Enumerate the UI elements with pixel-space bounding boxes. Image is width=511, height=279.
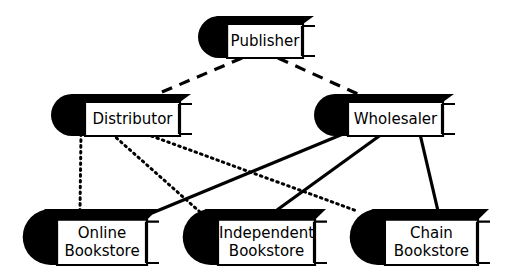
node-label-line: Bookstore bbox=[64, 242, 139, 260]
diagram-canvas: PublisherDistributorWholesalerOnlineBook… bbox=[0, 0, 511, 279]
book-top-edge bbox=[205, 209, 327, 220]
node-independent-bookstore[interactable]: IndependentBookstore bbox=[183, 209, 327, 265]
node-label-publisher: Publisher bbox=[231, 31, 301, 49]
edge-publisher-to-distributor bbox=[155, 58, 242, 95]
book-top-edge bbox=[216, 16, 314, 24]
node-label-line: Independent bbox=[219, 224, 314, 242]
node-online-bookstore[interactable]: OnlineBookstore bbox=[23, 209, 159, 265]
edge-publisher-to-wholesaler bbox=[278, 58, 360, 95]
edge-wholesaler-to-chain-bookstore bbox=[420, 134, 438, 211]
node-label-line: Bookstore bbox=[229, 242, 304, 260]
node-label-line: Chain bbox=[410, 224, 453, 242]
node-distributor[interactable]: Distributor bbox=[51, 94, 192, 136]
edge-wholesaler-to-independent-bookstore bbox=[277, 134, 382, 210]
node-chain-bookstore[interactable]: ChainBookstore bbox=[350, 209, 490, 265]
node-label-line: Wholesaler bbox=[354, 109, 438, 127]
book-top-edge bbox=[72, 94, 192, 102]
node-label-line: Bookstore bbox=[394, 242, 469, 260]
node-label-distributor: Distributor bbox=[92, 109, 173, 127]
book-top-edge bbox=[335, 94, 455, 102]
edge-distributor-to-online-bookstore bbox=[80, 134, 81, 211]
node-label-independent-bookstore: IndependentBookstore bbox=[219, 224, 314, 260]
node-label-wholesaler: Wholesaler bbox=[354, 109, 438, 127]
node-wholesaler[interactable]: Wholesaler bbox=[314, 94, 455, 136]
node-label-line: Online bbox=[78, 224, 126, 242]
book-top-edge bbox=[44, 209, 158, 220]
book-distribution-diagram: PublisherDistributorWholesalerOnlineBook… bbox=[0, 0, 511, 279]
node-label-line: Distributor bbox=[92, 109, 173, 127]
book-top-edge bbox=[371, 209, 489, 220]
node-label-line: Publisher bbox=[231, 31, 301, 49]
node-publisher[interactable]: Publisher bbox=[198, 16, 315, 58]
